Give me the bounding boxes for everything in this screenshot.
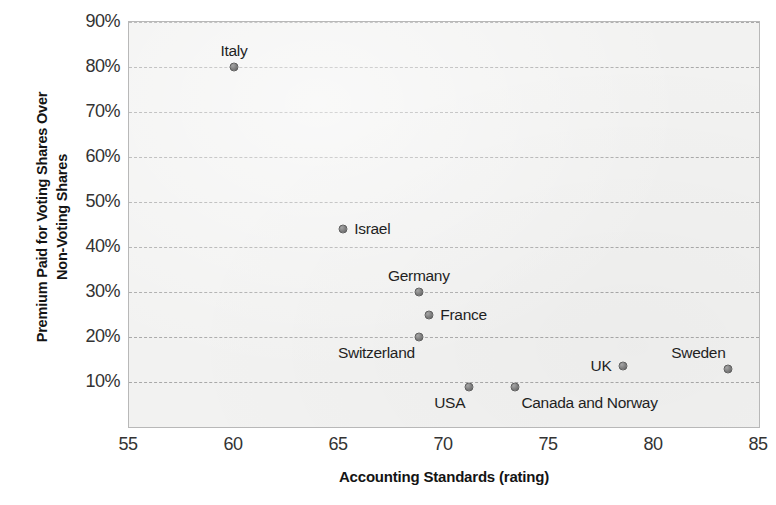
- data-point-italy[interactable]: [230, 63, 239, 72]
- y-tick-label-30%: 30%: [64, 281, 120, 302]
- scatter-chart-figure: Premium Paid for Voting Shares Over Non-…: [0, 0, 776, 505]
- y-tick-label-70%: 70%: [64, 101, 120, 122]
- y-tick-label-80%: 80%: [64, 56, 120, 77]
- gridline-70%: [129, 112, 759, 113]
- gridline-10%: [129, 382, 759, 383]
- point-label-italy: Italy: [221, 42, 248, 60]
- point-label-sweden: Sweden: [671, 344, 725, 362]
- point-label-uk: UK: [591, 357, 612, 375]
- data-point-france[interactable]: [425, 310, 434, 319]
- y-tick-label-40%: 40%: [64, 236, 120, 257]
- gridline-50%: [129, 202, 759, 203]
- x-axis-tick-labels: 55606570758085: [128, 434, 760, 460]
- x-axis-title: Accounting Standards (rating): [128, 468, 760, 485]
- x-tick-label-85: 85: [748, 434, 767, 455]
- x-tick-label-60: 60: [223, 434, 242, 455]
- point-label-canada-and-norway: Canada and Norway: [521, 394, 657, 412]
- gridline-40%: [129, 247, 759, 248]
- point-label-israel: Israel: [354, 220, 390, 238]
- x-tick-label-80: 80: [643, 434, 662, 455]
- data-point-sweden[interactable]: [723, 364, 732, 373]
- y-axis-tick-labels: 10%20%30%40%50%60%70%80%90%: [62, 0, 120, 505]
- y-tick-label-20%: 20%: [64, 326, 120, 347]
- gridline-90%: [129, 22, 759, 23]
- gridline-80%: [129, 67, 759, 68]
- point-label-germany: Germany: [388, 267, 450, 285]
- gridline-30%: [129, 292, 759, 293]
- point-label-usa: USA: [434, 394, 465, 412]
- y-tick-label-50%: 50%: [64, 191, 120, 212]
- point-label-switzerland: Switzerland: [338, 344, 415, 362]
- plot-area: ItalyIsraelGermanyFranceSwitzerlandUKSwe…: [128, 21, 760, 428]
- data-point-usa[interactable]: [465, 382, 474, 391]
- data-point-germany[interactable]: [414, 288, 423, 297]
- gridline-20%: [129, 337, 759, 338]
- data-point-israel[interactable]: [339, 225, 348, 234]
- y-tick-label-60%: 60%: [64, 146, 120, 167]
- gridline-60%: [129, 157, 759, 158]
- x-tick-label-70: 70: [433, 434, 452, 455]
- data-point-uk[interactable]: [618, 362, 627, 371]
- x-tick-label-65: 65: [328, 434, 347, 455]
- x-tick-label-75: 75: [538, 434, 557, 455]
- y-tick-label-10%: 10%: [64, 371, 120, 392]
- point-label-france: France: [440, 306, 486, 324]
- y-axis-title-line-1: Premium Paid for Voting Shares Over: [32, 67, 52, 367]
- x-tick-label-55: 55: [118, 434, 137, 455]
- data-point-canada-and-norway[interactable]: [511, 382, 520, 391]
- data-point-switzerland[interactable]: [414, 333, 423, 342]
- y-tick-label-90%: 90%: [64, 11, 120, 32]
